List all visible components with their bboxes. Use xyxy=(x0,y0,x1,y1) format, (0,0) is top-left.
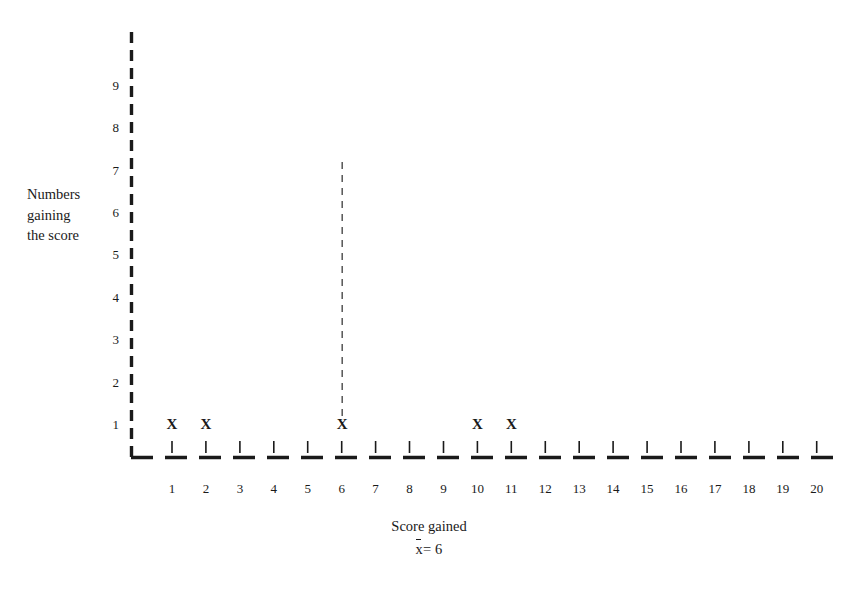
x-axis-title-block: Score gained x= 6 xyxy=(0,516,858,559)
x-tick-label: 5 xyxy=(304,481,311,496)
y-tick-label: 1 xyxy=(113,417,120,432)
x-tick-label: 9 xyxy=(440,481,447,496)
data-point-marker: X xyxy=(506,416,517,432)
x-tick-label: 20 xyxy=(810,481,823,496)
x-tick-label: 15 xyxy=(641,481,654,496)
y-tick-label: 2 xyxy=(113,375,120,390)
y-axis-title-line: the score xyxy=(27,225,80,246)
x-tick-label: 16 xyxy=(675,481,689,496)
y-tick-label: 4 xyxy=(113,290,120,305)
data-points: X X X X X xyxy=(167,416,517,432)
x-tick-label: 4 xyxy=(271,481,278,496)
x-tick-label: 19 xyxy=(776,481,789,496)
chart-container: 1 2 3 4 5 6 7 8 9 10 11 12 13 14 15 16 1… xyxy=(0,0,858,594)
x-tick-label: 11 xyxy=(505,481,518,496)
y-tick-label: 3 xyxy=(113,332,120,347)
y-axis-title-line: gaining xyxy=(27,205,80,226)
x-axis-title: Score gained xyxy=(391,518,466,534)
x-axis-ticks xyxy=(172,441,817,453)
x-bar-symbol: x xyxy=(415,539,422,560)
x-tick-label: 8 xyxy=(406,481,413,496)
data-point-marker: X xyxy=(167,416,178,432)
y-tick-label: 5 xyxy=(113,247,120,262)
x-tick-label: 18 xyxy=(742,481,755,496)
x-tick-label: 3 xyxy=(237,481,244,496)
x-tick-label: 12 xyxy=(539,481,552,496)
x-tick-label: 1 xyxy=(169,481,176,496)
y-tick-label: 8 xyxy=(113,120,120,135)
y-tick-label: 6 xyxy=(113,205,120,220)
x-tick-label: 17 xyxy=(708,481,722,496)
x-tick-label: 7 xyxy=(372,481,379,496)
y-tick-label: 9 xyxy=(113,78,120,93)
y-axis-tick-labels: 1 2 3 4 5 6 7 8 9 xyxy=(113,78,120,432)
y-axis-title: Numbers gaining the score xyxy=(27,184,80,246)
y-tick-label: 7 xyxy=(113,163,120,178)
x-tick-label: 10 xyxy=(471,481,484,496)
x-tick-label: 14 xyxy=(607,481,621,496)
x-tick-label: 6 xyxy=(338,481,345,496)
mean-caption: x= 6 xyxy=(0,539,858,560)
chart-plot-area: 1 2 3 4 5 6 7 8 9 10 11 12 13 14 15 16 1… xyxy=(0,0,858,594)
data-point-marker: X xyxy=(200,416,211,432)
x-axis-tick-labels: 1 2 3 4 5 6 7 8 9 10 11 12 13 14 15 16 1… xyxy=(169,481,823,496)
data-point-marker: X xyxy=(472,416,483,432)
data-point-marker: X xyxy=(337,416,348,432)
y-axis-title-line: Numbers xyxy=(27,184,80,205)
x-tick-label: 13 xyxy=(573,481,586,496)
mean-value-text: = 6 xyxy=(423,541,443,557)
x-tick-label: 2 xyxy=(203,481,210,496)
